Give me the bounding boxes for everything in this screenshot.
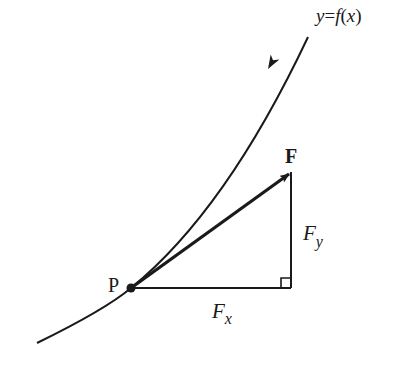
curve-label-close: ) <box>355 5 361 27</box>
curve-label-eq: = <box>324 5 335 26</box>
fx-label: Fx <box>211 299 232 327</box>
fx-label-main: F <box>211 299 225 323</box>
curve-label-y: y <box>314 5 325 26</box>
fy-label: Fy <box>302 221 324 251</box>
curve-direction-arrow-icon <box>264 54 280 71</box>
point-p-dot <box>127 284 136 293</box>
right-angle-marker <box>281 278 291 288</box>
fx-label-sub: x <box>224 310 232 327</box>
fy-label-sub: y <box>314 233 324 251</box>
force-f-label: F <box>285 145 297 167</box>
point-p-label: P <box>108 274 119 296</box>
force-vector-f <box>131 174 289 288</box>
curve-equation-label: y=f(x) <box>314 5 362 27</box>
force-decomposition-diagram: P F y=f(x) Fy Fx <box>0 0 411 369</box>
fy-label-main: F <box>302 221 316 245</box>
